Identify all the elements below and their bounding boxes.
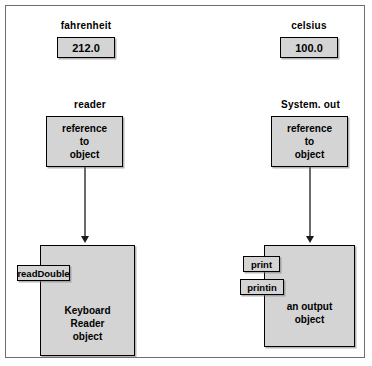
diagram-canvas: fahrenheit 212.0 reader reference to obj… [0,0,372,366]
object-text-line1: Keyboard [41,304,134,317]
object-text-line2: Reader [41,317,134,330]
method-tag-readdouble: readDouble [17,265,70,281]
arrow-line-systemout-to-object [309,167,311,236]
reference-text-line2: to [80,135,89,148]
arrow-head-systemout-to-object [306,236,314,243]
label-celsius: celsius [280,20,338,31]
arrow-line-reader-to-object [84,167,86,236]
object-box-keyboard-reader: Keyboard Reader object [40,245,135,356]
value-box-celsius: 100.0 [280,37,338,58]
object-text-line2: object [265,313,354,326]
method-tag-println: printin [240,279,284,295]
reference-box-system-out: reference to object [271,116,348,167]
reference-box-reader: reference to object [46,116,123,167]
label-fahrenheit: fahrenheit [57,20,115,31]
method-tag-print: print [243,256,280,272]
reference-text-line1: reference [62,122,107,135]
value-box-fahrenheit: 212.0 [57,37,115,58]
label-system-out: System. out [272,99,349,110]
reference-text-line2: to [305,135,314,148]
object-text-line1: an output [265,300,354,313]
reference-text-line3: object [295,148,324,161]
reference-text-line1: reference [287,122,332,135]
reference-text-line3: object [70,148,99,161]
arrow-head-reader-to-object [81,236,89,243]
object-text-line3: object [41,330,134,343]
label-reader: reader [57,99,123,110]
